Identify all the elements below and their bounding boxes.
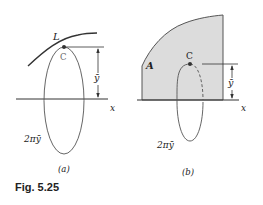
figure-5-25: L C ȳ x 2πȳ (a) A C ȳ x 2πȳ (b) (0, 0, 263, 205)
arrow-down-a (96, 93, 99, 98)
panel-label-b: (b) (182, 167, 194, 177)
centroid-point-b (188, 62, 192, 66)
area-label-a: A (145, 60, 154, 71)
area-region (142, 15, 223, 100)
figure-caption: Fig. 5.25 (15, 181, 59, 193)
arrow-up-b (230, 65, 233, 70)
curve-label-l: L (52, 31, 60, 42)
centroid-label-b: C (186, 51, 193, 61)
centroid-point-a (62, 45, 66, 49)
revolution-circle-a (44, 47, 84, 154)
axis-label-a: x (110, 103, 115, 113)
panel-b: A C ȳ x 2πȳ (b) (137, 15, 246, 177)
centroid-label-a: C (60, 52, 67, 62)
circumference-label-b: 2πȳ (156, 140, 175, 150)
circumference-label-a: 2πȳ (23, 134, 42, 144)
panel-a: L C ȳ x 2πȳ (a) (16, 31, 115, 174)
arrow-down-b (230, 94, 233, 99)
axis-label-b: x (241, 103, 246, 113)
distance-label-b: ȳ (227, 77, 234, 88)
arrow-up-a (96, 48, 99, 53)
distance-label-a: ȳ (93, 72, 100, 83)
panel-label-a: (a) (58, 164, 70, 174)
